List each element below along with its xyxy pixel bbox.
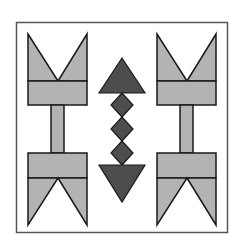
right-top-band — [157, 81, 216, 105]
left-top-band — [28, 81, 87, 105]
right-stem — [180, 105, 193, 153]
quilt-block-artwork — [0, 0, 242, 252]
left-stem — [51, 105, 64, 153]
right-bottom-band — [157, 153, 216, 178]
left-bottom-band — [28, 153, 87, 178]
